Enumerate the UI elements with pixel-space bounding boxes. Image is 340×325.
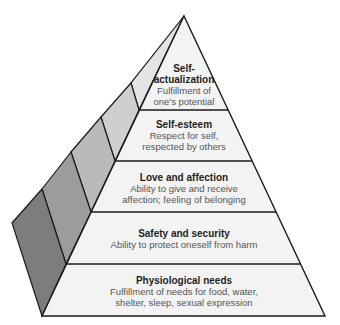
level-title-line2: actualization: [84, 74, 284, 85]
level-desc: Ability to give and receive: [84, 183, 284, 194]
level-desc-line2: affection; feeling of belonging: [84, 194, 284, 205]
level-desc: Fulfillment of: [84, 85, 284, 96]
level-desc-line2: shelter, sleep, sexual expression: [84, 297, 284, 308]
level-self-esteem: Self-esteem Respect for self, respected …: [84, 119, 284, 152]
level-desc-line2: one's potential: [84, 96, 284, 107]
level-physiological-needs: Physiological needs Fulfillment of needs…: [84, 275, 284, 308]
level-desc: Fulfillment of needs for food, water,: [84, 286, 284, 297]
level-love-and-affection: Love and affection Ability to give and r…: [84, 172, 284, 205]
level-title: Self-: [84, 63, 284, 74]
level-desc: Respect for self,: [84, 130, 284, 141]
level-self-actualization: Self- actualization Fulfillment of one's…: [84, 63, 284, 107]
level-title: Safety and security: [84, 228, 284, 239]
level-desc: Ability to protect oneself from harm: [84, 239, 284, 250]
level-safety-and-security: Safety and security Ability to protect o…: [84, 228, 284, 250]
level-desc-line2: respected by others: [84, 141, 284, 152]
level-title: Physiological needs: [84, 275, 284, 286]
level-title: Love and affection: [84, 172, 284, 183]
level-title: Self-esteem: [84, 119, 284, 130]
